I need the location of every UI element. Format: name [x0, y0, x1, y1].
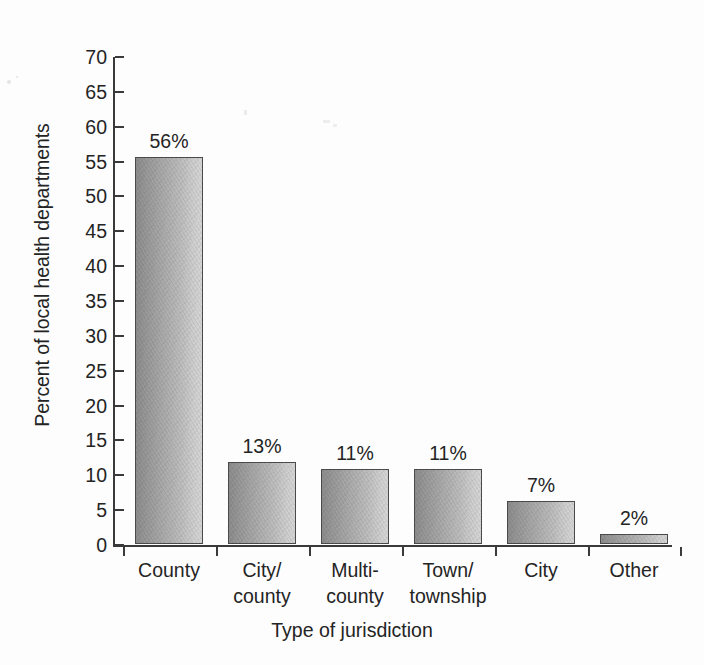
y-axis-tick-labels: 7065605550454035302520151050: [51, 57, 107, 547]
scan-artifact-speck: [7, 80, 11, 84]
y-axis-tick: [115, 265, 124, 267]
bar: [135, 157, 203, 544]
y-axis-tick: [115, 161, 124, 163]
x-axis-tick: [495, 547, 497, 556]
bar-value-label: 56%: [119, 130, 219, 153]
x-axis-title: Type of jurisdiction: [0, 619, 704, 642]
y-axis-tick-label: 25: [51, 359, 107, 382]
y-axis-tick-label: 70: [51, 46, 107, 69]
y-axis-tick: [115, 544, 124, 546]
bar-texture: [136, 158, 202, 543]
y-axis-tick-label: 65: [51, 80, 107, 103]
bar-texture: [229, 463, 295, 543]
bar-texture: [322, 470, 388, 543]
bar: [321, 469, 389, 544]
y-axis-tick-label: 15: [51, 429, 107, 452]
y-axis-tick-label: 5: [51, 499, 107, 522]
bar-value-label: 13%: [212, 435, 312, 458]
bar-chart-figure: Percent of local health departments 7065…: [0, 0, 704, 665]
y-axis-tick: [115, 335, 124, 337]
y-axis-tick: [115, 91, 124, 93]
y-axis-tick: [115, 126, 124, 128]
y-axis-tick: [115, 509, 124, 511]
bar-texture: [508, 502, 574, 543]
y-axis-tick-label: 50: [51, 185, 107, 208]
y-axis-tick: [115, 56, 124, 58]
y-axis-tick: [115, 405, 124, 407]
x-axis-tick: [402, 547, 404, 556]
y-axis-tick-label: 45: [51, 220, 107, 243]
bar-value-label: 7%: [491, 474, 591, 497]
scan-artifact-speck: [16, 76, 18, 78]
bar-texture: [601, 535, 667, 543]
bar: [600, 534, 668, 544]
x-axis-tick: [309, 547, 311, 556]
bar-value-label: 11%: [305, 442, 405, 465]
bar: [228, 462, 296, 544]
y-axis-tick-label: 30: [51, 324, 107, 347]
x-axis-tick: [216, 547, 218, 556]
y-axis-tick-label: 0: [51, 534, 107, 557]
plot-area: 7065605550454035302520151050 56%13%11%11…: [113, 57, 672, 546]
y-axis-tick-label: 40: [51, 255, 107, 278]
y-axis-tick-label: 60: [51, 115, 107, 138]
x-axis-tick: [588, 547, 590, 556]
y-axis-tick: [115, 300, 124, 302]
y-axis-tick: [115, 474, 124, 476]
bar-value-label: 2%: [584, 507, 684, 530]
y-axis-tick-label: 35: [51, 290, 107, 313]
y-axis-tick-label: 20: [51, 394, 107, 417]
x-axis-tick: [680, 547, 682, 556]
x-axis-category-label: Other: [574, 557, 694, 583]
bar: [507, 501, 575, 544]
x-axis-tick: [123, 547, 125, 556]
y-axis-tick: [115, 230, 124, 232]
bar: [414, 469, 482, 544]
y-axis-tick: [115, 439, 124, 441]
y-axis-tick-label: 10: [51, 464, 107, 487]
y-axis-tick: [115, 370, 124, 372]
y-axis-tick-label: 55: [51, 150, 107, 173]
bar-value-label: 11%: [398, 442, 498, 465]
y-axis-tick: [115, 195, 124, 197]
bar-texture: [415, 470, 481, 543]
